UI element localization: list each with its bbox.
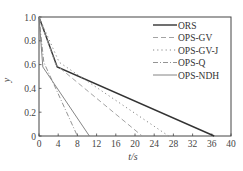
x-tick-label: 20 [130, 139, 140, 149]
x-axis-label: t/s [128, 151, 138, 162]
series-ops-gv-j [39, 17, 169, 136]
x-tick-label: 12 [92, 139, 102, 149]
series-ops-ndh [39, 17, 89, 136]
y-tick-label: 0.6 [24, 60, 36, 70]
x-tick-label: 8 [75, 139, 80, 149]
x-tick-label: 32 [188, 139, 198, 149]
y-axis-label: y [1, 77, 12, 83]
x-tick-label: 0 [37, 139, 42, 149]
y-tick-label: 0 [31, 132, 36, 142]
legend-label: ORS [178, 21, 196, 31]
x-tick-label: 16 [111, 139, 121, 149]
x-tick-label: 40 [226, 139, 236, 149]
series-ops-gv [39, 17, 142, 136]
legend-label: OPS-GV-J [178, 46, 219, 56]
series-ops-q [39, 17, 77, 136]
x-tick-label: 28 [169, 139, 179, 149]
legend: ORSOPS-GVOPS-GV-JOPS-QOPS-NDH [153, 21, 219, 81]
x-tick-label: 4 [56, 139, 61, 149]
y-tick-label: 0.8 [24, 36, 36, 46]
legend-label: OPS-NDH [178, 71, 219, 81]
legend-label: OPS-Q [178, 58, 206, 68]
y-tick-label: 0.2 [24, 108, 36, 118]
chart: 0481216202428323640 00.20.40.60.81.0 ORS… [0, 0, 243, 171]
y-tick-label: 1.0 [24, 13, 36, 23]
legend-label: OPS-GV [178, 33, 212, 43]
y-tick-label: 0.4 [24, 84, 36, 94]
x-tick-label: 24 [149, 139, 159, 149]
x-tick-label: 36 [207, 139, 217, 149]
